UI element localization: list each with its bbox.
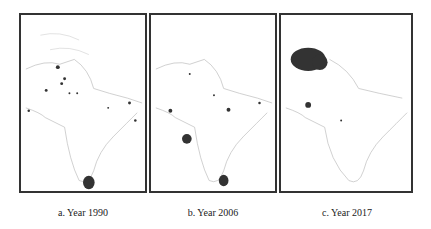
india-map-2017	[281, 15, 411, 191]
map-panel-2006	[149, 13, 277, 193]
map-panel-2017	[279, 13, 413, 193]
caption-1990: a. Year 1990	[23, 207, 143, 218]
india-map-2006	[151, 15, 275, 191]
caption-2017: c. Year 2017	[287, 207, 407, 218]
caption-2006: b. Year 2006	[153, 207, 273, 218]
india-map-1990	[21, 15, 145, 191]
map-panel-1990	[19, 13, 147, 193]
